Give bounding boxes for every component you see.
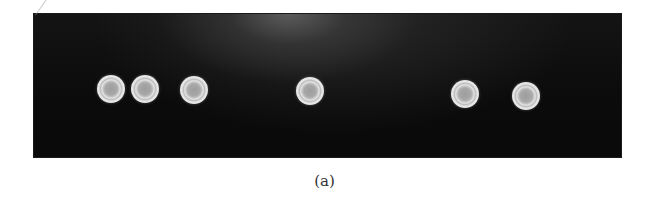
panel-scratch-mark	[35, 0, 48, 16]
disc-4	[296, 77, 324, 105]
disc-1	[97, 75, 125, 103]
disc-2	[131, 75, 159, 103]
disc-3	[180, 76, 208, 104]
figure-caption: (a)	[0, 172, 649, 190]
figure: (a)	[0, 0, 649, 206]
disc-6	[512, 82, 540, 110]
disc-5	[451, 80, 479, 108]
